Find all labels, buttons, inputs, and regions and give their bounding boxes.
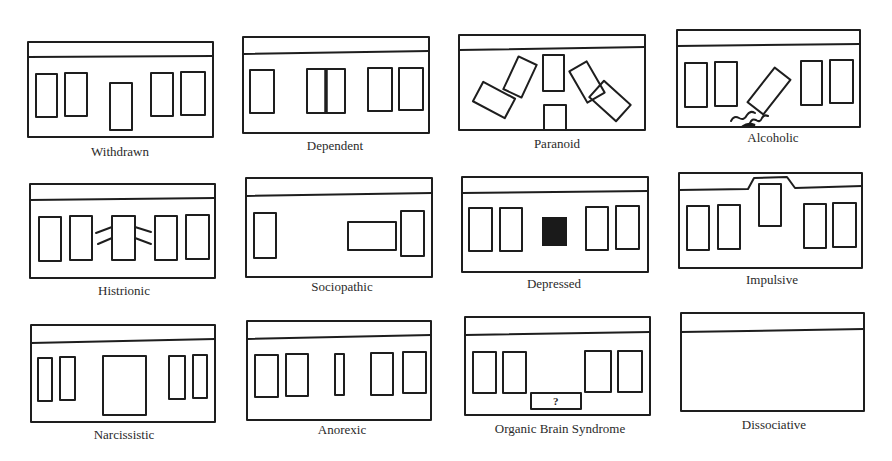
panel-divider [30, 198, 215, 200]
panel-anorexic [247, 321, 431, 420]
door-tilted [589, 81, 630, 121]
door [399, 68, 423, 110]
spill-puddle-icon [743, 124, 755, 126]
emphasis-stroke [135, 227, 151, 232]
panel-dissociative [681, 313, 864, 411]
label-impulsive: Impulsive [746, 272, 798, 288]
door [718, 205, 740, 249]
door [830, 60, 853, 103]
label-withdrawn: Withdrawn [91, 144, 149, 160]
door [254, 213, 276, 258]
door [586, 207, 608, 250]
panel-impulsive [679, 173, 862, 268]
door [38, 358, 52, 401]
panel-divider [465, 332, 650, 335]
label-histrionic: Histrionic [98, 283, 150, 299]
panel-divider [247, 335, 431, 339]
door-histrionic-center [112, 216, 135, 260]
door [65, 73, 87, 116]
door [801, 61, 822, 105]
door-narcissistic-large [103, 356, 146, 415]
panel-divider [677, 44, 860, 46]
door-tilted [503, 56, 536, 97]
door-tilted [569, 61, 604, 102]
label-alcoholic: Alcoholic [747, 130, 798, 146]
door [401, 211, 424, 256]
panel-divider [31, 339, 215, 343]
door [618, 351, 642, 392]
door-depressed-dark [543, 218, 566, 245]
door [193, 355, 207, 398]
label-sociopathic: Sociopathic [311, 279, 372, 295]
emphasis-stroke [98, 238, 112, 244]
door [250, 70, 274, 113]
panel-sociopathic [246, 178, 432, 277]
emphasis-stroke [135, 238, 151, 244]
door [833, 203, 856, 247]
door [685, 63, 707, 107]
panel-paranoid [459, 35, 645, 130]
label-anorexic: Anorexic [318, 422, 366, 438]
door [255, 355, 278, 397]
panel-withdrawn [28, 42, 213, 137]
door [368, 68, 392, 111]
label-dependent: Dependent [307, 138, 363, 154]
door [585, 351, 611, 392]
panel-divider [243, 51, 429, 54]
door [469, 208, 492, 251]
spill-squiggle-icon [750, 115, 768, 123]
panel-divider [462, 191, 648, 193]
label-paranoid: Paranoid [534, 136, 580, 152]
door-anorexic-thin [335, 354, 344, 395]
door-center-top [543, 55, 564, 91]
door-dependent-left [307, 69, 326, 113]
door [186, 215, 209, 259]
panel-narcissistic [31, 325, 215, 422]
door [181, 72, 205, 115]
panel-divider [28, 56, 213, 57]
door [70, 216, 92, 260]
panel-frame [681, 313, 864, 411]
panel-divider [246, 193, 432, 196]
door-impulsive-raised [759, 184, 781, 226]
label-narcissistic: Narcissistic [94, 427, 155, 443]
door [500, 208, 522, 251]
door [687, 206, 709, 250]
door [371, 353, 393, 395]
door [60, 357, 75, 400]
door [169, 356, 185, 399]
label-depressed: Depressed [527, 276, 581, 292]
door [715, 62, 737, 106]
panel-organic-brain-syndrome: ? [465, 317, 650, 415]
door-center-bottom [544, 105, 566, 130]
door-tilted [473, 82, 515, 118]
door [403, 352, 426, 393]
diagram-canvas: ? [0, 0, 892, 461]
door-withdrawn-center [110, 83, 132, 130]
label-dissociative: Dissociative [742, 417, 806, 433]
panel-depressed [462, 177, 648, 272]
door [39, 217, 61, 261]
panel-divider [681, 329, 864, 332]
label-organic-brain-syndrome: Organic Brain Syndrome [495, 421, 625, 437]
panel-divider [459, 47, 645, 50]
door [36, 74, 57, 117]
door-sociopathic-sideways [348, 222, 396, 250]
door [503, 352, 526, 393]
panel-alcoholic [677, 30, 860, 127]
door [804, 204, 826, 248]
door [151, 73, 173, 116]
door-tilted-bottle [748, 68, 791, 115]
door [286, 354, 308, 396]
question-mark-annotation: ? [553, 395, 559, 407]
panel-histrionic [30, 184, 215, 278]
emphasis-stroke [96, 227, 112, 233]
panel-dependent [243, 37, 429, 133]
door [473, 352, 496, 393]
door [616, 206, 639, 249]
door-dependent-right [326, 69, 345, 113]
door [155, 216, 177, 260]
